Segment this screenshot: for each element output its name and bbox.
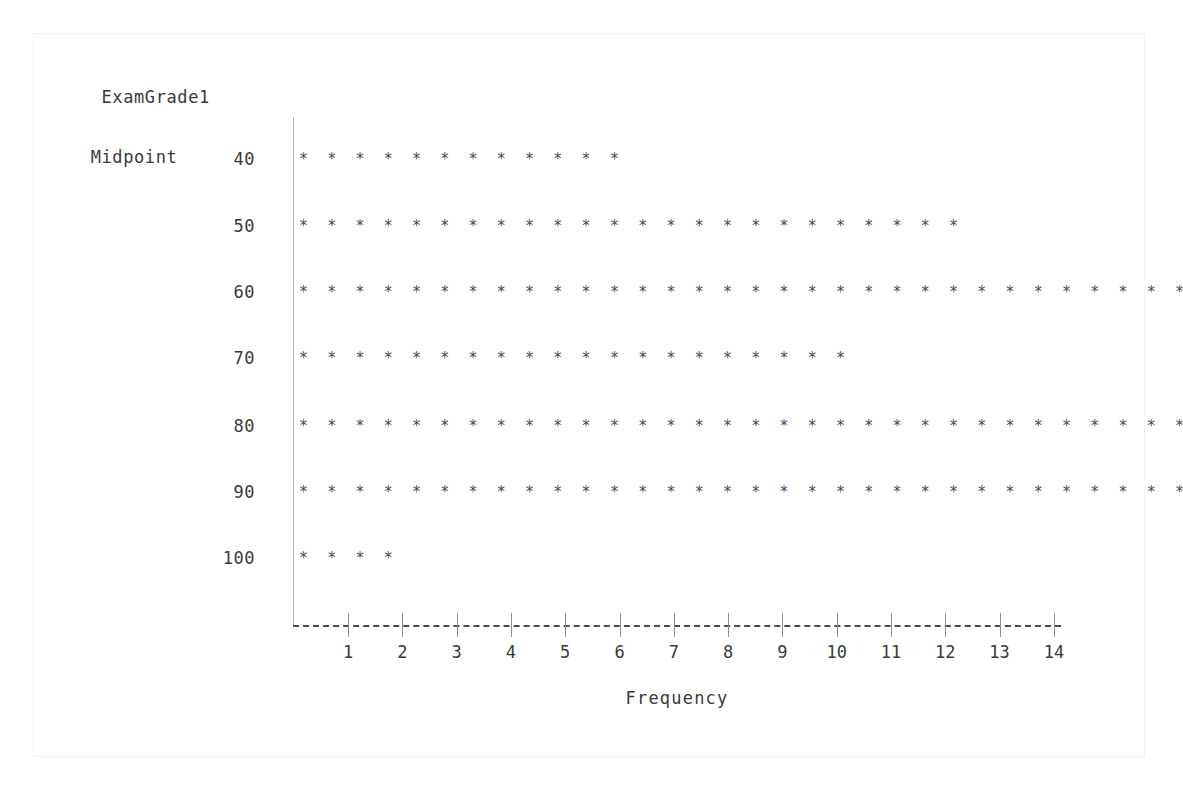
y-tick-label-60: 60 — [150, 279, 255, 305]
plot-row: 60 * * * * * * * * * * * * * * * * * * *… — [150, 279, 1150, 305]
x-tick-mark-7 — [674, 613, 675, 637]
y-tick-label-50: 50 — [150, 213, 255, 239]
bar-asterisks-40: * * * * * * * * * * * * — [299, 146, 624, 172]
plot-row: 40 * * * * * * * * * * * * — [150, 146, 1150, 172]
x-tick-mark-13 — [1000, 613, 1001, 637]
x-tick-label-7: 7 — [654, 640, 694, 664]
x-tick-mark-5 — [565, 613, 566, 637]
x-tick-label-6: 6 — [600, 640, 640, 664]
bar-asterisks-70: * * * * * * * * * * * * * * * * * * * * — [299, 345, 850, 371]
x-tick-label-3: 3 — [437, 640, 477, 664]
x-tick-label-5: 5 — [545, 640, 585, 664]
y-tick-label-90: 90 — [150, 479, 255, 505]
plot-row: 70 * * * * * * * * * * * * * * * * * * *… — [150, 345, 1150, 371]
x-tick-label-8: 8 — [708, 640, 748, 664]
x-tick-mark-11 — [891, 613, 892, 637]
x-tick-mark-2 — [402, 613, 403, 637]
y-tick-label-80: 80 — [150, 413, 255, 439]
x-tick-label-1: 1 — [328, 640, 368, 664]
plot-row: 80 * * * * * * * * * * * * * * * * * * *… — [150, 413, 1150, 439]
x-tick-mark-12 — [945, 613, 946, 637]
bar-asterisks-80: * * * * * * * * * * * * * * * * * * * * … — [299, 413, 1183, 439]
y-tick-label-40: 40 — [150, 146, 255, 172]
y-tick-label-100: 100 — [150, 545, 255, 571]
x-tick-mark-4 — [511, 613, 512, 637]
chart-title-line-1: ExamGrade1 — [101, 87, 209, 107]
x-tick-label-2: 2 — [382, 640, 422, 664]
x-tick-label-13: 13 — [980, 640, 1020, 664]
plot-row: 50 * * * * * * * * * * * * * * * * * * *… — [150, 213, 1150, 239]
x-tick-label-12: 12 — [925, 640, 965, 664]
plot-row: 90 * * * * * * * * * * * * * * * * * * *… — [150, 479, 1150, 505]
x-tick-mark-9 — [782, 613, 783, 637]
bar-asterisks-60: * * * * * * * * * * * * * * * * * * * * … — [299, 279, 1183, 305]
plot-row: 100 * * * * — [150, 545, 1150, 571]
y-tick-label-70: 70 — [150, 345, 255, 371]
x-axis-title: Frequency — [293, 688, 1061, 708]
x-tick-mark-6 — [620, 613, 621, 637]
x-tick-label-11: 11 — [871, 640, 911, 664]
character-plot-figure: ExamGrade1 Midpoint 40 * * * * * * * * *… — [0, 0, 1183, 788]
bar-asterisks-50: * * * * * * * * * * * * * * * * * * * * … — [299, 213, 963, 239]
x-tick-mark-14 — [1054, 613, 1055, 637]
x-tick-mark-3 — [457, 613, 458, 637]
bar-asterisks-90: * * * * * * * * * * * * * * * * * * * * … — [299, 479, 1183, 505]
x-tick-mark-1 — [348, 613, 349, 637]
x-tick-label-9: 9 — [762, 640, 802, 664]
x-tick-label-4: 4 — [491, 640, 531, 664]
x-tick-mark-8 — [728, 613, 729, 637]
x-tick-label-14: 14 — [1034, 640, 1074, 664]
x-tick-mark-10 — [837, 613, 838, 637]
x-tick-label-10: 10 — [817, 640, 857, 664]
chart-title: ExamGrade1 Midpoint — [0, 52, 268, 232]
bar-asterisks-100: * * * * — [299, 545, 398, 571]
